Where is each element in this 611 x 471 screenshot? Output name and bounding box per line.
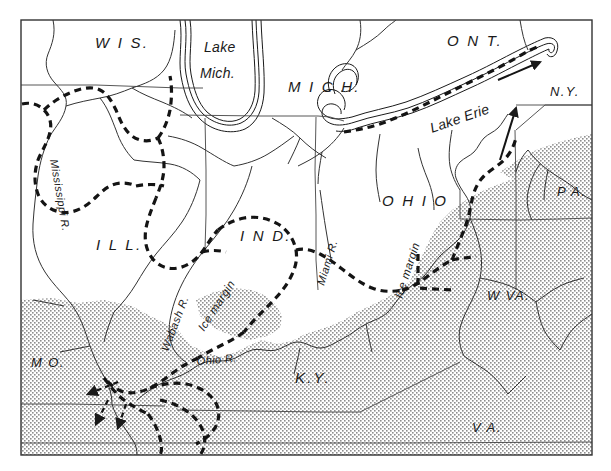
label-wva: W VA. xyxy=(487,288,530,303)
label-ind: I N D. xyxy=(240,227,292,244)
label-mich: M I C H. xyxy=(288,78,361,95)
label-ohio: O H I O xyxy=(382,192,448,209)
label-pa: P A. xyxy=(557,184,586,199)
label-ny: N.Y. xyxy=(550,84,580,99)
label-mo: M O. xyxy=(31,355,65,370)
label-wis: W I S. xyxy=(95,34,149,51)
map-canvas: W I S. M I C H. O N T. N.Y. P A. O H I O… xyxy=(0,0,611,471)
label-ky: K.Y. xyxy=(295,369,331,386)
label-ont: O N T. xyxy=(447,32,503,49)
label-lake-michigan-line2: Mich. xyxy=(200,65,235,81)
label-lake-michigan-line1: Lake xyxy=(204,39,236,55)
label-va: V A. xyxy=(472,420,502,435)
label-ill: I L L. xyxy=(96,236,142,253)
historical-glacial-map: W I S. M I C H. O N T. N.Y. P A. O H I O… xyxy=(0,0,611,471)
